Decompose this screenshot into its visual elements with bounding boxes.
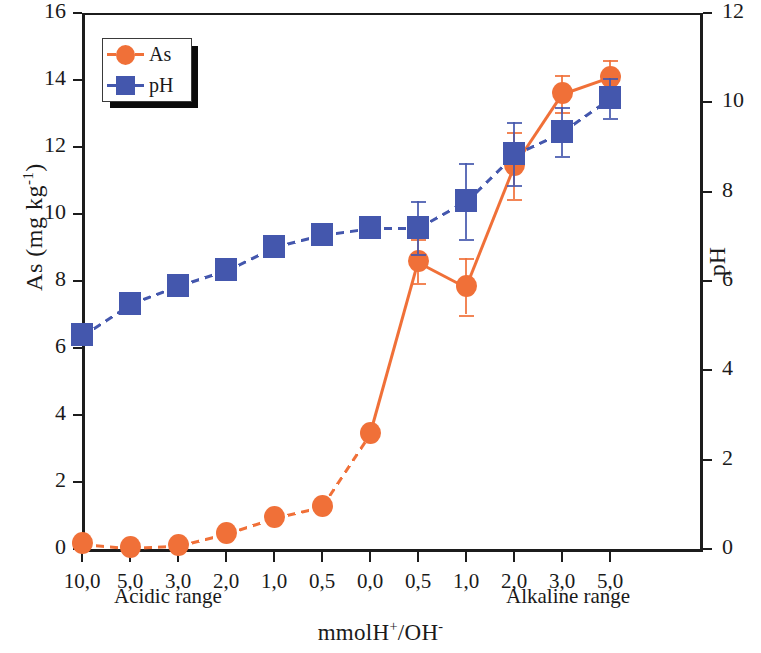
error-bar-cap	[507, 185, 522, 187]
x-tick	[225, 552, 227, 562]
right-tick-label: 8	[722, 179, 761, 201]
left-tick-label: 12	[6, 134, 66, 156]
ph-data-point	[551, 120, 573, 143]
top-axis-line	[82, 13, 703, 15]
as-data-point	[552, 82, 573, 104]
x-tick	[321, 552, 323, 562]
ph-data-point	[215, 258, 237, 281]
ph-data-point	[503, 142, 525, 165]
legend-item-as: As	[103, 39, 191, 70]
y-axis-left-title-superscript: -1	[20, 172, 36, 185]
ph-data-point	[599, 86, 621, 109]
ph-data-point	[359, 216, 381, 239]
x-tick	[561, 552, 563, 562]
right-tick	[703, 191, 712, 193]
ph-data-point	[407, 216, 429, 239]
right-axis-line	[700, 13, 703, 551]
error-bar-cap	[603, 60, 618, 62]
left-tick-label: 14	[6, 67, 66, 89]
left-tick-label: 10	[6, 201, 66, 223]
right-tick	[703, 101, 712, 103]
legend-square-marker-icon	[116, 76, 135, 95]
error-bar-cap	[603, 78, 618, 80]
x-tick	[369, 552, 371, 562]
error-bar-cap	[555, 156, 570, 158]
as-data-point	[360, 422, 381, 444]
ph-data-point	[311, 223, 333, 246]
left-tick	[73, 146, 82, 148]
as-data-point	[456, 275, 477, 297]
legend-dash-right-icon	[135, 53, 144, 56]
ph-data-point	[455, 189, 477, 212]
x-axis-title: mmolH+/OH-	[0, 618, 761, 646]
left-tick	[73, 481, 82, 483]
legend-item-ph: pH	[103, 70, 191, 101]
as-data-point	[120, 536, 141, 558]
error-bar-cap	[507, 199, 522, 201]
error-bar-cap	[459, 163, 474, 165]
ph-data-point	[167, 274, 189, 297]
legend-circle-marker-icon	[116, 45, 135, 65]
right-tick	[703, 369, 712, 371]
chart-legend: As pH	[102, 38, 192, 102]
right-tick-label: 0	[722, 536, 761, 558]
left-tick	[73, 280, 82, 282]
right-tick	[703, 12, 712, 14]
left-tick	[73, 12, 82, 14]
x-tick	[465, 552, 467, 562]
error-bar-cap	[555, 75, 570, 77]
as-data-point	[312, 495, 333, 517]
left-tick-label: 2	[6, 469, 66, 491]
right-tick-label: 12	[722, 0, 761, 22]
left-tick-label: 4	[6, 402, 66, 424]
right-tick	[703, 280, 712, 282]
left-tick	[73, 213, 82, 215]
x-tick	[273, 552, 275, 562]
left-tick-label: 16	[6, 0, 66, 22]
error-bar-cap	[603, 118, 618, 120]
legend-dash-left-icon	[107, 84, 116, 87]
legend-label-ph: pH	[149, 74, 173, 97]
x-axis-title-superscript-plus: +	[389, 618, 397, 634]
right-tick-label: 10	[722, 89, 761, 111]
x-axis-title-mid: /OH	[398, 620, 439, 645]
as-data-point	[216, 522, 237, 544]
left-tick-label: 8	[6, 268, 66, 290]
right-tick	[703, 459, 712, 461]
y-axis-left-title-tail: )	[21, 163, 47, 172]
left-tick	[73, 79, 82, 81]
ph-data-point	[71, 323, 93, 346]
error-bar-cap	[411, 283, 426, 285]
as-data-point	[168, 534, 189, 556]
left-tick	[73, 414, 82, 416]
error-bar-cap	[459, 239, 474, 241]
legend-dash-right-icon	[135, 84, 144, 87]
series-line-segment	[369, 262, 420, 435]
error-bar-cap	[459, 315, 474, 317]
right-tick-label: 4	[722, 357, 761, 379]
right-tick-label: 6	[722, 268, 761, 290]
x-tick	[513, 552, 515, 562]
right-tick-label: 2	[722, 447, 761, 469]
as-data-point	[72, 532, 93, 554]
left-tick-label: 0	[6, 536, 66, 558]
x-tick-label: 5,0	[575, 569, 645, 594]
error-bar-cap	[411, 201, 426, 203]
error-bar-cap	[507, 122, 522, 124]
y-axis-right-title: pH	[704, 217, 731, 307]
error-bar-cap	[411, 254, 426, 256]
x-axis-title-superscript-minus: -	[438, 618, 443, 634]
legend-dash-left-icon	[107, 53, 116, 56]
chart-canvas: As (mg kg-1) pH mmolH+/OH- Acidic range …	[0, 0, 761, 653]
left-tick-label: 6	[6, 335, 66, 357]
error-bar-cap	[555, 107, 570, 109]
x-axis-title-main: mmolH	[318, 620, 390, 645]
error-bar-cap	[459, 258, 474, 260]
left-axis-line	[82, 13, 85, 551]
x-tick	[417, 552, 419, 562]
left-tick	[73, 347, 82, 349]
ph-data-point	[119, 292, 141, 315]
ph-data-point	[263, 235, 285, 258]
legend-label-as: As	[149, 43, 171, 66]
as-data-point	[264, 506, 285, 528]
